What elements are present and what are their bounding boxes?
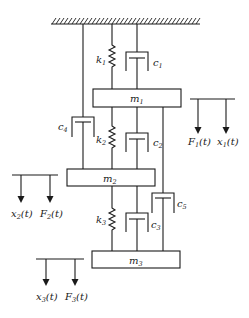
arrow-group-3: x3(t) F3(t) [36,259,88,304]
damper-c5-label: c5 [177,198,187,211]
damper-c2-label: c2 [153,137,163,150]
spring-k1: k1 [96,24,115,89]
displacement-label-x3: x3(t) [36,291,58,304]
damper-c3: c3 [126,186,161,251]
spring-k3: k3 [96,186,115,251]
force-label-f3: F3(t) [64,291,88,304]
mass-m1: m1 [93,89,181,107]
damper-c1-label: c1 [153,57,163,70]
displacement-arrow-icon [18,196,25,203]
damper-c4: c4 [58,24,94,169]
displacement-label-x2: x2(t) [11,208,33,221]
arrow-group-1: F1(t) x1(t) [187,99,239,149]
force-arrow-icon [47,196,54,203]
displacement-arrow-icon [43,279,50,286]
mass-m2: m2 [67,169,155,186]
arrow-group-2: x2(t) F2(t) [11,175,63,221]
force-label-f1: F1(t) [187,136,211,149]
force-arrow-icon [72,279,79,286]
displacement-label-x1: x1(t) [217,136,239,149]
damper-c2: c2 [126,107,163,169]
fixed-support [51,18,200,24]
spring-damper-diagram: k1 c1 m1 c4 k2 c2 m2 [0,0,249,318]
damper-c3-label: c3 [151,219,161,232]
force-arrow-icon [195,127,202,134]
displacement-arrow-icon [223,127,230,134]
force-label-f2: F2(t) [39,208,63,221]
spring-k3-label: k3 [96,214,106,227]
damper-c1: c1 [126,24,163,89]
spring-k2: k2 [96,107,115,169]
spring-k2-label: k2 [96,134,106,147]
mass-m3: m3 [92,251,180,268]
spring-k1-label: k1 [96,54,106,67]
damper-c4-label: c4 [58,121,68,134]
